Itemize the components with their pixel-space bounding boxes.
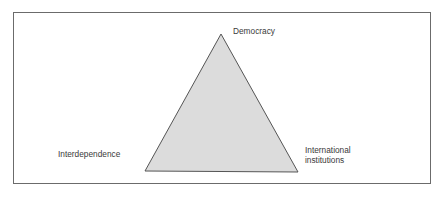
vertex-label-democracy: Democracy <box>233 26 275 36</box>
vertex-label-line-1: International <box>305 145 351 155</box>
triangle-shape <box>145 34 298 172</box>
vertex-label-interdependence: Interdependence <box>58 149 120 159</box>
vertex-label-international-institutions: International institutions <box>305 145 351 165</box>
triangle-diagram <box>0 0 448 198</box>
vertex-label-line-2: institutions <box>305 155 351 165</box>
